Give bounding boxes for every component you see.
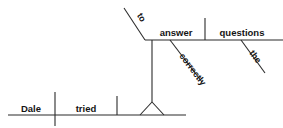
word-verb-tried: tried: [76, 103, 97, 114]
word-adverb-correctly: correctly: [177, 51, 208, 87]
word-article-the: the: [247, 48, 263, 65]
word-particle-to: to: [135, 11, 148, 24]
word-object-questions: questions: [220, 27, 265, 38]
sentence-diagram-svg: Dale tried to answer questions correctly…: [0, 0, 283, 128]
word-infinitive-answer: answer: [160, 27, 193, 38]
sentence-diagram-canvas: Dale tried to answer questions correctly…: [0, 0, 283, 128]
word-subject-dale: Dale: [21, 103, 41, 114]
pedestal-triangle-right-leg: [152, 102, 164, 115]
pedestal-triangle-left-leg: [140, 102, 152, 115]
